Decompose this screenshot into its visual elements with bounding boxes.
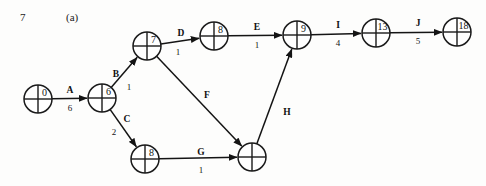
node-label: 8 <box>218 24 223 35</box>
edge-weight-B: 1 <box>127 82 132 92</box>
node-label: 9 <box>301 23 306 34</box>
edge-label-E: E <box>254 22 260 32</box>
network-diagram-page: 7 (a) 0678913188 A6B1C2D1E1FG1HI4J5 <box>0 0 486 186</box>
node-n18[interactable]: 18 <box>443 18 471 46</box>
edge-label-H: H <box>283 107 291 117</box>
edge-label-B: B <box>113 69 120 79</box>
node-n13[interactable]: 13 <box>362 19 390 47</box>
node-label: 18 <box>459 20 469 31</box>
edge-label-J: J <box>416 18 421 28</box>
edge-label-I: I <box>336 20 340 30</box>
edge-weight-E: 1 <box>255 40 260 50</box>
edge-label-C: C <box>124 114 131 124</box>
edge-weight-C: 2 <box>112 127 117 137</box>
edge-label-G: G <box>197 147 205 157</box>
edge-weight-G: 1 <box>199 165 204 175</box>
node-label: 0 <box>42 87 47 98</box>
node-n0[interactable]: 0 <box>24 85 52 113</box>
edge-A <box>52 98 87 99</box>
node-label: 6 <box>106 86 111 97</box>
nodes-layer: 0678913188 <box>24 18 471 173</box>
node-n8t[interactable]: 8 <box>200 22 228 50</box>
edge-weight-J: 5 <box>416 36 421 46</box>
edge-weight-A: 6 <box>68 103 73 113</box>
edge-weight-I: 4 <box>336 38 341 48</box>
edge-E <box>228 35 282 36</box>
edge-D <box>161 38 199 44</box>
edge-J <box>390 32 442 33</box>
edge-label-A: A <box>67 85 74 95</box>
edge-I <box>311 33 361 34</box>
edge-F <box>157 56 242 146</box>
network-graph: 0678913188 A6B1C2D1E1FG1HI4J5 <box>0 0 486 186</box>
node-label: 8 <box>149 147 154 158</box>
node-n7[interactable]: 7 <box>133 32 161 60</box>
node-n6[interactable]: 6 <box>88 84 116 112</box>
edge-label-F: F <box>204 90 210 100</box>
edge-weight-D: 1 <box>176 47 181 57</box>
edge-G <box>159 157 237 158</box>
edge-H <box>257 49 292 144</box>
node-n9[interactable]: 9 <box>283 21 311 49</box>
node-label: 7 <box>151 34 156 45</box>
edge-label-D: D <box>178 28 185 38</box>
node-label: 13 <box>378 21 388 32</box>
node-nx[interactable] <box>238 143 266 171</box>
node-n8b[interactable]: 8 <box>131 145 159 173</box>
